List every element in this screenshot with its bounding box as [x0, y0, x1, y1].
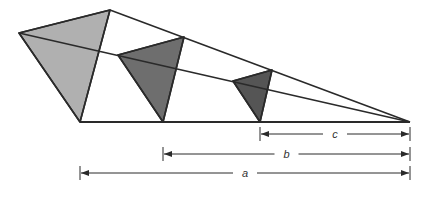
dimension-lines: cba — [80, 127, 410, 180]
triangles-group — [19, 10, 272, 122]
dimension-label-c: c — [332, 128, 338, 140]
similar-triangles-diagram: cba — [0, 0, 432, 198]
dimension-a: a — [80, 166, 410, 180]
triangle-large — [19, 10, 110, 122]
dimension-label-a: a — [242, 167, 248, 179]
dimension-b: b — [163, 147, 410, 161]
dimension-label-b: b — [283, 148, 289, 160]
dimension-c: c — [260, 127, 410, 141]
